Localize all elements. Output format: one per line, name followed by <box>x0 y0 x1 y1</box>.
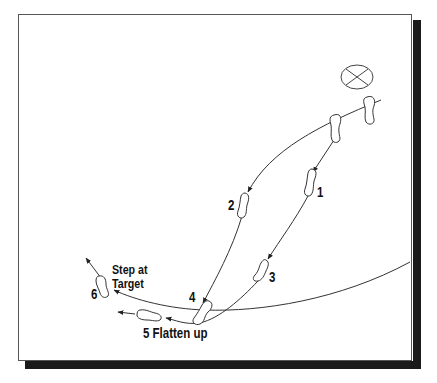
footprint-1 <box>304 169 316 196</box>
footprint-start-left <box>330 114 341 142</box>
footprint-6 <box>96 276 109 298</box>
path-6-exit <box>86 258 101 278</box>
path-2-to-4 <box>203 216 242 303</box>
footprint-2 <box>237 193 248 218</box>
target-icon <box>341 65 373 89</box>
step-label-5: 5 Flatten up <box>143 327 207 340</box>
step-label-3: 3 <box>269 271 275 284</box>
path-1-to-3 <box>268 196 308 259</box>
step-label-6: 6 <box>91 288 97 301</box>
path-to-1 <box>313 140 334 172</box>
annotation-step-at: Step at <box>112 263 148 276</box>
path-3-to-5 <box>166 281 258 323</box>
step-label-1: 1 <box>317 186 323 199</box>
step-label-4: 4 <box>189 291 195 304</box>
footprint-4 <box>193 301 212 325</box>
footprint-3 <box>253 260 268 282</box>
footprint-start-right <box>364 96 375 124</box>
annotation-target: Target <box>112 277 144 290</box>
path-5-exit <box>118 312 135 314</box>
footwork-diagram <box>0 0 437 383</box>
footprint-5 <box>137 310 161 321</box>
step-label-2: 2 <box>228 199 234 212</box>
